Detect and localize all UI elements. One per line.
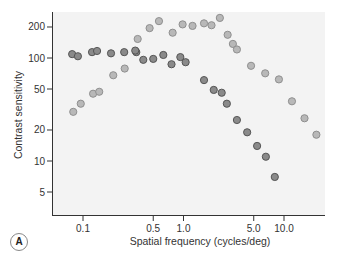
data-point-light: [301, 115, 308, 122]
data-point-light: [247, 62, 254, 69]
data-point-dark: [271, 173, 278, 180]
y-ticks: 5102050100200: [28, 21, 52, 197]
data-point-light: [189, 22, 196, 29]
x-axis-label: Spatial frequency (cycles/deg): [130, 235, 271, 247]
data-point-light: [121, 65, 128, 72]
data-point-light: [313, 131, 320, 138]
y-tick-label: 20: [34, 124, 46, 135]
data-point-light: [233, 46, 240, 53]
y-tick-label: 200: [28, 21, 45, 32]
y-tick-label: 50: [34, 84, 46, 95]
data-point-light: [208, 22, 215, 29]
y-tick-label: 100: [28, 53, 45, 64]
data-point-light: [110, 72, 117, 79]
data-point-dark: [150, 55, 157, 62]
x-tick-label: 0.5: [146, 223, 160, 234]
x-tick-label: 10.0: [274, 223, 294, 234]
data-point-dark: [200, 77, 207, 84]
data-point-light: [275, 76, 282, 83]
y-axis-label: Contrast sensitivity: [12, 70, 24, 159]
data-point-dark: [93, 47, 100, 54]
data-point-light: [179, 21, 186, 28]
data-point-light: [216, 14, 223, 21]
data-point-dark: [244, 129, 251, 136]
y-tick-label: 5: [39, 187, 45, 198]
data-point-light: [134, 35, 141, 42]
data-point-dark: [210, 86, 217, 93]
x-tick-label: 5.0: [247, 223, 261, 234]
data-point-light: [155, 18, 162, 25]
x-tick-label: 1.0: [177, 223, 191, 234]
data-point-dark: [254, 142, 261, 149]
data-point-dark: [74, 53, 81, 60]
y-tick-label: 10: [34, 156, 46, 167]
data-point-dark: [262, 153, 269, 160]
data-point-light: [70, 108, 77, 115]
data-point-dark: [168, 61, 175, 68]
data-point-dark: [160, 51, 167, 58]
data-point-light: [146, 25, 153, 32]
data-point-light: [169, 29, 176, 36]
data-point-dark: [132, 47, 139, 54]
data-point-light: [77, 100, 84, 107]
data-point-dark: [140, 56, 147, 63]
data-point-light: [96, 88, 103, 95]
x-tick-label: 0.1: [76, 223, 90, 234]
data-point-light: [262, 70, 269, 77]
data-point-dark: [107, 50, 114, 57]
data-point-dark: [233, 116, 240, 123]
x-ticks: 0.10.51.05.010.0: [76, 216, 294, 234]
data-point-dark: [182, 59, 189, 66]
data-point-dark: [223, 100, 230, 107]
plot-background: [53, 12, 325, 215]
data-point-dark: [218, 89, 225, 96]
data-point-dark: [121, 49, 128, 56]
data-point-light: [200, 20, 207, 27]
data-point-light: [224, 31, 231, 38]
panel-label: A: [10, 233, 28, 251]
contrast-sensitivity-chart: 5102050100200 0.10.51.05.010.0 Spatial f…: [0, 0, 342, 263]
data-point-light: [288, 98, 295, 105]
